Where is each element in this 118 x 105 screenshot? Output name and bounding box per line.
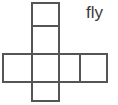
cell-fill-upper-middle: [31, 26, 60, 54]
cell-fill-right-outer: [80, 54, 108, 82]
cube-net-figure: fly: [0, 0, 118, 105]
cell-fill-left: [2, 54, 31, 82]
cell-fill-center: [31, 54, 60, 82]
figure-label-fly: fly: [86, 3, 103, 22]
cell-fill-right-inner: [60, 54, 80, 82]
cell-fill-top: [31, 2, 60, 26]
cell-fill-bottom: [31, 82, 60, 102]
